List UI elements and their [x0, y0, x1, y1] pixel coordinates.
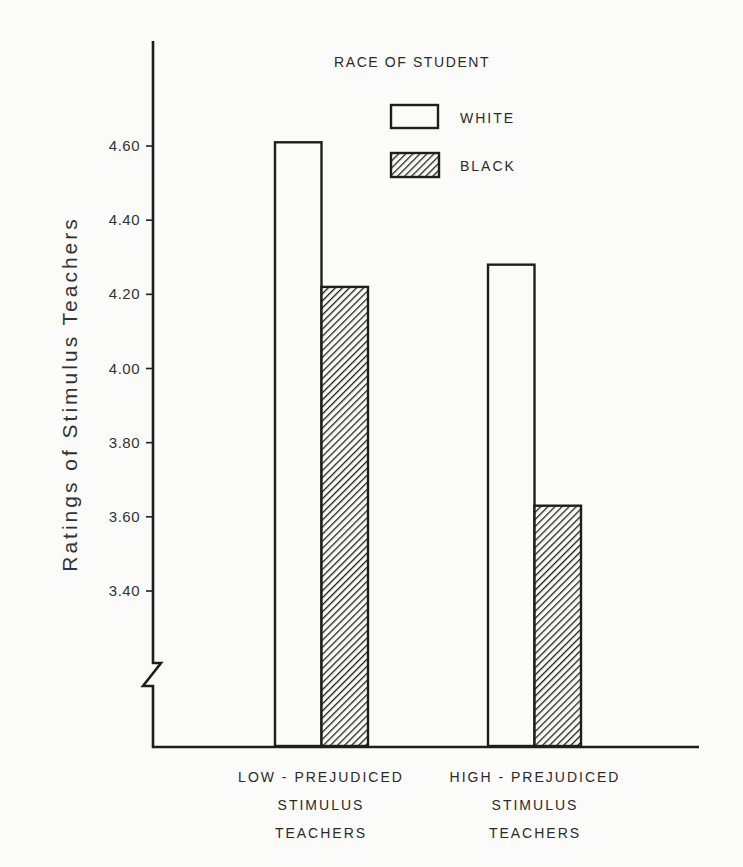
- category-label-line: TEACHERS: [275, 825, 367, 841]
- category-label-line: STIMULUS: [278, 797, 365, 813]
- legend-label-white: WHITE: [460, 110, 515, 126]
- y-tick-label: 4.20: [109, 285, 140, 302]
- legend: RACE OF STUDENT WHITE BLACK: [334, 54, 516, 177]
- legend-label-black: BLACK: [460, 158, 516, 174]
- bar-black-high-prejudiced: [535, 506, 582, 746]
- legend-title: RACE OF STUDENT: [334, 54, 490, 70]
- category-label-line: HIGH - PREJUDICED: [450, 769, 621, 785]
- y-tick-label: 4.00: [109, 360, 140, 377]
- category-label-line: TEACHERS: [489, 825, 581, 841]
- bar-black-low-prejudiced: [322, 287, 369, 746]
- y-axis-label: Ratings of Stimulus Teachers: [58, 216, 81, 572]
- y-tick-label: 3.40: [109, 582, 140, 599]
- legend-swatch-black: [391, 153, 439, 177]
- category-label-line: STIMULUS: [492, 797, 579, 813]
- y-tick-label: 4.60: [109, 137, 140, 154]
- bars: [275, 142, 581, 746]
- y-tick-label: 4.40: [109, 211, 140, 228]
- y-axis-line: [143, 41, 699, 747]
- bar-white-low-prejudiced: [275, 142, 322, 746]
- y-axis-ticks: 4.604.404.204.003.803.603.40: [109, 137, 153, 599]
- category-label-line: LOW - PREJUDICED: [238, 769, 404, 785]
- bar-chart: Ratings of Stimulus Teachers 4.604.404.2…: [0, 0, 743, 867]
- y-tick-label: 3.80: [109, 434, 140, 451]
- y-tick-label: 3.60: [109, 508, 140, 525]
- bar-white-high-prejudiced: [488, 265, 535, 746]
- legend-swatch-white: [391, 105, 438, 128]
- category-labels: LOW - PREJUDICEDSTIMULUSTEACHERSHIGH - P…: [238, 769, 620, 841]
